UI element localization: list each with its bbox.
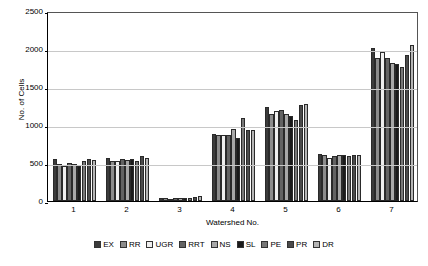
bar-ex-group-6 bbox=[318, 154, 322, 201]
legend-swatch-icon bbox=[237, 241, 244, 248]
legend-swatch-icon bbox=[261, 241, 268, 248]
bar-pe-group-3 bbox=[188, 198, 192, 201]
gridline bbox=[48, 51, 417, 52]
y-tick-label: 0 bbox=[12, 198, 43, 206]
legend-item-sl[interactable]: SL bbox=[237, 240, 256, 249]
bar-ugr-group-1 bbox=[62, 166, 66, 201]
bar-dr-group-6 bbox=[357, 155, 361, 202]
x-axis-title: Watershed No. bbox=[47, 218, 418, 227]
bar-pe-group-6 bbox=[347, 156, 351, 201]
y-axis-tick-labels: 05001000150020002500 bbox=[12, 12, 43, 202]
legend-label: NS bbox=[220, 240, 231, 249]
x-tick-label: 5 bbox=[283, 205, 287, 214]
bar-sl-group-4 bbox=[236, 138, 240, 201]
y-tick-label: 2500 bbox=[12, 8, 43, 16]
bar-rrt-group-5 bbox=[279, 110, 283, 201]
legend-item-ugr[interactable]: UGR bbox=[146, 240, 173, 249]
bar-ugr-group-3 bbox=[168, 199, 172, 202]
legend-swatch-icon bbox=[313, 241, 320, 248]
bar-pe-group-4 bbox=[241, 118, 245, 201]
legend-label: PR bbox=[296, 240, 307, 249]
bar-rrt-group-4 bbox=[226, 135, 230, 201]
plot-area bbox=[47, 12, 418, 202]
bar-group bbox=[313, 13, 366, 201]
bar-ns-group-6 bbox=[337, 155, 341, 201]
x-tick-label: 3 bbox=[177, 205, 181, 214]
bar-ugr-group-4 bbox=[221, 135, 225, 201]
bar-group bbox=[101, 13, 154, 201]
y-tick-mark bbox=[45, 89, 48, 90]
y-tick-mark bbox=[45, 203, 48, 204]
bar-ex-group-5 bbox=[265, 107, 269, 201]
bar-sl-group-6 bbox=[342, 155, 346, 201]
bar-rr-group-6 bbox=[322, 155, 326, 201]
bar-ns-group-1 bbox=[72, 164, 76, 201]
bar-ns-group-3 bbox=[178, 198, 182, 201]
y-tick-label: 500 bbox=[12, 160, 43, 168]
legend: EXRRUGRRRTNSSLPEPRDR bbox=[0, 240, 428, 249]
bar-rr-group-1 bbox=[57, 164, 61, 201]
bar-ex-group-4 bbox=[212, 134, 216, 201]
legend-label: RR bbox=[129, 240, 141, 249]
legend-label: DR bbox=[322, 240, 334, 249]
y-tick-label: 1000 bbox=[12, 122, 43, 130]
legend-swatch-icon bbox=[211, 241, 218, 248]
y-tick-label: 2000 bbox=[12, 46, 43, 54]
bar-rrt-group-1 bbox=[67, 163, 71, 201]
legend-swatch-icon bbox=[94, 241, 101, 248]
bar-sl-group-7 bbox=[395, 64, 399, 201]
y-tick-mark bbox=[45, 51, 48, 52]
bar-pe-group-5 bbox=[294, 120, 298, 201]
bar-group bbox=[366, 13, 419, 201]
x-tick-label: 1 bbox=[71, 205, 75, 214]
bar-sl-group-1 bbox=[77, 166, 81, 201]
y-tick-mark bbox=[45, 13, 48, 14]
bar-dr-group-7 bbox=[410, 45, 414, 201]
legend-label: RRT bbox=[188, 240, 204, 249]
legend-swatch-icon bbox=[146, 241, 153, 248]
legend-item-rr[interactable]: RR bbox=[120, 240, 141, 249]
bar-rrt-group-3 bbox=[173, 198, 177, 201]
y-tick-label: 1500 bbox=[12, 84, 43, 92]
legend-label: PE bbox=[270, 240, 281, 249]
bar-sl-group-5 bbox=[289, 116, 293, 201]
gridline bbox=[48, 127, 417, 128]
bar-ex-group-3 bbox=[159, 198, 163, 201]
gridline bbox=[48, 165, 417, 166]
bar-pe-group-7 bbox=[400, 67, 404, 201]
legend-item-rrt[interactable]: RRT bbox=[179, 240, 204, 249]
bar-rr-group-4 bbox=[216, 135, 220, 201]
legend-item-pr[interactable]: PR bbox=[287, 240, 307, 249]
legend-swatch-icon bbox=[120, 241, 127, 248]
bar-pr-group-5 bbox=[299, 105, 303, 201]
bar-pr-group-2 bbox=[140, 156, 144, 201]
legend-swatch-icon bbox=[179, 241, 186, 248]
legend-item-ex[interactable]: EX bbox=[94, 240, 114, 249]
gridline bbox=[48, 89, 417, 90]
bar-chart: No. of Cells 05001000150020002500 123456… bbox=[0, 0, 428, 266]
bar-sl-group-3 bbox=[183, 198, 187, 201]
bar-rrt-group-6 bbox=[332, 156, 336, 201]
bar-dr-group-5 bbox=[304, 104, 308, 201]
bar-dr-group-3 bbox=[198, 196, 202, 201]
legend-item-dr[interactable]: DR bbox=[313, 240, 334, 249]
bar-ns-group-7 bbox=[390, 63, 394, 201]
bar-group bbox=[154, 13, 207, 201]
legend-label: UGR bbox=[155, 240, 173, 249]
y-tick-mark bbox=[45, 127, 48, 128]
bar-group bbox=[260, 13, 313, 201]
x-tick-label: 7 bbox=[389, 205, 393, 214]
bar-rr-group-7 bbox=[375, 58, 379, 201]
bar-rr-group-2 bbox=[110, 161, 114, 201]
bars-layer bbox=[48, 13, 417, 201]
x-tick-label: 4 bbox=[230, 205, 234, 214]
legend-item-ns[interactable]: NS bbox=[211, 240, 231, 249]
legend-item-pe[interactable]: PE bbox=[261, 240, 281, 249]
bar-pr-group-6 bbox=[352, 155, 356, 201]
y-tick-mark bbox=[45, 165, 48, 166]
bar-pr-group-3 bbox=[193, 197, 197, 201]
x-axis-tick-labels: 1234567 bbox=[47, 205, 418, 219]
bar-ex-group-7 bbox=[371, 48, 375, 201]
bar-rr-group-3 bbox=[163, 198, 167, 201]
bar-pe-group-1 bbox=[82, 161, 86, 201]
